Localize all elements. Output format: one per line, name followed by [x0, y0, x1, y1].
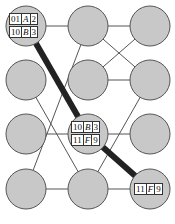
label-number: 2 — [31, 14, 38, 24]
label-row: 10 B 3 — [9, 26, 38, 38]
label-row: 11 F 9 — [134, 183, 163, 195]
label-row: 11 F 9 — [71, 134, 100, 146]
edge — [26, 26, 88, 189]
label-letter: A — [22, 14, 31, 24]
node-r3c3 — [130, 114, 170, 154]
edges — [26, 26, 150, 189]
label-letter: F — [147, 184, 156, 194]
node-r1c2 — [68, 6, 108, 46]
label-letter: B — [22, 27, 31, 37]
node-r1c3 — [130, 6, 170, 46]
label-row: 01 A 2 — [9, 13, 38, 25]
label-letter: F — [84, 135, 93, 145]
node-r4c2 — [68, 169, 108, 209]
label-number: 9 — [155, 184, 162, 194]
label-letter: B — [84, 122, 93, 132]
node-label-r1c1: 01 A 2 10 B 3 — [9, 13, 38, 38]
label-code: 10 — [10, 27, 22, 37]
label-number: 9 — [92, 135, 99, 145]
label-code: 11 — [135, 184, 147, 194]
node-r2c3 — [130, 60, 170, 100]
node-r2c1 — [6, 60, 46, 100]
label-code: 11 — [72, 135, 84, 145]
node-label-r4c3: 11 F 9 — [134, 183, 163, 195]
node-r3c1 — [6, 114, 46, 154]
node-r4c1 — [6, 169, 46, 209]
label-row: 10 B 3 — [71, 121, 100, 133]
label-number: 3 — [31, 27, 38, 37]
label-code: 10 — [72, 122, 84, 132]
label-number: 3 — [93, 122, 100, 132]
node-r2c2 — [68, 60, 108, 100]
label-code: 01 — [10, 14, 22, 24]
highlight-path — [26, 26, 150, 189]
node-label-r3c2: 10 B 3 11 F 9 — [71, 121, 100, 146]
